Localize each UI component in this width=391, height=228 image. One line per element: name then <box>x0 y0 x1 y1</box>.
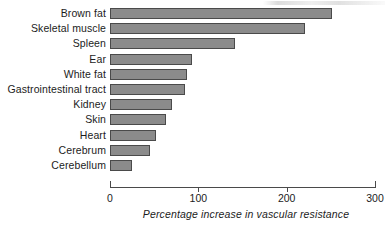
category-label: Heart <box>80 128 110 143</box>
bar <box>110 114 166 125</box>
x-axis-line <box>110 187 376 188</box>
category-label: Gastrointestinal tract <box>8 82 111 97</box>
bar <box>110 84 185 95</box>
bar <box>110 145 150 156</box>
category-label: Cerebrum <box>59 143 110 158</box>
plot-area: Brown fatSkeletal muscleSpleenEarWhite f… <box>0 0 391 228</box>
bar <box>110 130 156 141</box>
bar <box>110 23 305 34</box>
bar-row: Cerebrum <box>0 143 391 158</box>
bar-chart: Brown fatSkeletal muscleSpleenEarWhite f… <box>0 0 391 228</box>
category-label: Brown fat <box>61 6 110 21</box>
bar <box>110 160 132 171</box>
bar-row: Spleen <box>0 36 391 51</box>
x-axis-cap-right <box>375 181 376 188</box>
bar-row: White fat <box>0 67 391 82</box>
bar-row: Gastrointestinal tract <box>0 82 391 97</box>
category-label: Cerebellum <box>51 158 110 173</box>
x-axis-cap-left <box>110 181 111 188</box>
bar-row: Ear <box>0 52 391 67</box>
category-label: White fat <box>64 67 110 82</box>
category-label: Skin <box>85 112 110 127</box>
bar-row: Skeletal muscle <box>0 21 391 36</box>
bar <box>110 38 235 49</box>
bar-row: Brown fat <box>0 6 391 21</box>
x-axis-tick-label: 200 <box>278 192 296 205</box>
bar <box>110 99 172 110</box>
bar-row: Skin <box>0 112 391 127</box>
x-axis-tick-label: 100 <box>190 192 208 205</box>
x-axis-tick-label: 0 <box>107 192 113 205</box>
x-axis-tick-label: 300 <box>366 192 384 205</box>
bar-row: Heart <box>0 128 391 143</box>
category-label: Spleen <box>73 36 110 51</box>
bar-row: Cerebellum <box>0 158 391 173</box>
bar-row: Kidney <box>0 97 391 112</box>
category-label: Skeletal muscle <box>31 21 110 36</box>
bar <box>110 8 332 19</box>
category-label: Ear <box>89 52 110 67</box>
bar <box>110 69 187 80</box>
category-label: Kidney <box>73 97 110 112</box>
x-axis-title: Percentage increase in vascular resistan… <box>110 208 382 220</box>
bar <box>110 54 192 65</box>
